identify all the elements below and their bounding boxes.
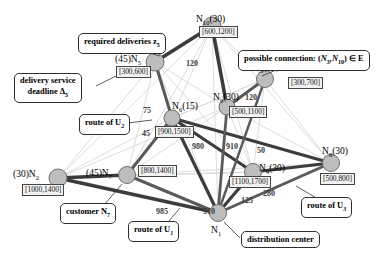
edge-weight-n5-n10: 120: [186, 59, 198, 68]
time-window-n2: [1000,1400]: [22, 184, 64, 196]
edge-weight-n5-n6: 75: [143, 106, 151, 115]
node-label-n1: N1: [211, 225, 221, 237]
edge-weight-n6-n8: 50: [257, 146, 265, 155]
edge-weight-n6-n7: 45: [142, 129, 150, 138]
callout-delivery-deadline: delivery service deadline Δ5: [14, 73, 82, 103]
edge-weight-n1-n4b: 280: [263, 189, 275, 198]
edge-weight-n6-n4: 910: [226, 142, 238, 151]
callout-required-deliveries-text: required deliveries z: [84, 37, 157, 46]
deadline-sub: 5: [65, 91, 68, 97]
figure-canvas: N10(30) [600,1200] (45)N5 [300,600] N3(1…: [0, 0, 390, 254]
callout-route-u3: route of U3: [301, 197, 352, 218]
node-label-n4: N4(30): [259, 163, 285, 175]
route-u1-text: route of U: [134, 225, 170, 234]
callout-route-u2: route of U2: [79, 114, 130, 135]
route-edge-n6-n8: [172, 118, 331, 163]
pc-post: ) ∈ E: [344, 54, 364, 63]
node-label-n10: N10(30): [196, 14, 225, 26]
node-label-n6: N6(15): [172, 101, 198, 113]
node-label-n2: (30)N2: [13, 169, 39, 181]
node-label-n7: (45)N7: [86, 168, 112, 180]
customer-sub: 7: [107, 212, 110, 218]
edge-weight-n7-n1b: 910: [203, 207, 215, 216]
callout-customer-n7: customer N7: [60, 203, 116, 224]
edge-weight-n6-n1: 980: [192, 142, 204, 151]
route-u2-text: route of U: [85, 118, 121, 127]
time-window-n5: [300,600]: [116, 66, 151, 78]
node-n7[interactable]: [119, 167, 136, 184]
route-u3-text: route of U: [307, 201, 343, 210]
edge-weight-n9-n3: 120: [245, 93, 257, 102]
route-u2-sub: 2: [121, 123, 124, 129]
callout-distribution-center: distribution center: [241, 231, 320, 248]
node-label-n5: (45)N5: [115, 54, 141, 66]
time-window-n3: [300,700]: [288, 77, 323, 89]
pc-pre: possible connection: (: [244, 54, 321, 63]
callout-leader-7: [224, 222, 240, 238]
time-window-n4: [1100,1700]: [229, 176, 271, 188]
callout-route-u1: route of U1: [128, 221, 179, 242]
time-window-n6: [900,1500]: [155, 126, 194, 138]
edge-weight-n1-n4: 125: [241, 196, 253, 205]
time-window-n9: [500,1100]: [229, 106, 267, 118]
deadline-text: deadline Δ: [27, 87, 65, 96]
callout-possible-connection: possible connection: (N3,N10) ∈ E: [238, 50, 370, 71]
route-u3-sub: 3: [343, 206, 346, 212]
callout-required-deliveries-sub: 5: [157, 42, 160, 48]
pc-mid: ,N: [330, 54, 338, 63]
edge-weight-n7-n1: 985: [156, 207, 168, 216]
route-u1-sub: 1: [170, 230, 173, 236]
callout-delivery-line2: deadline Δ5: [20, 87, 76, 100]
callout-delivery-line1: delivery service: [20, 76, 76, 87]
node-label-n9: N9(30): [213, 92, 239, 104]
time-window-n10: [600,1200]: [199, 26, 238, 38]
callout-leader-5: [168, 208, 180, 222]
time-window-n7: [800,1400]: [138, 165, 177, 177]
callout-leader-2: [96, 76, 116, 86]
node-label-n8: N8(30): [322, 146, 348, 158]
customer-text: customer N: [66, 207, 107, 216]
time-window-n8: [500,800]: [320, 173, 355, 185]
callout-required-deliveries: required deliveries z5: [78, 33, 166, 54]
